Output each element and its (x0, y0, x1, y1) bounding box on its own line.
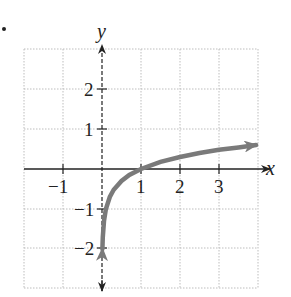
y-tick-label: −2 (74, 238, 94, 259)
y-axis-label: y (95, 20, 106, 43)
y-tick-label: 1 (84, 119, 94, 140)
x-tick-label: −1 (48, 176, 68, 197)
log-curve (102, 145, 256, 249)
x-axis-label: x (265, 157, 275, 179)
y-tick-label: −1 (74, 199, 94, 220)
log-graph: x y −1 1 2 3 2 1 −1 −2 (0, 0, 291, 297)
x-tick-label: 3 (214, 176, 224, 197)
x-tick-label: 2 (175, 176, 185, 197)
x-tick-label: 1 (136, 176, 146, 197)
y-tick-label: 2 (84, 79, 94, 100)
